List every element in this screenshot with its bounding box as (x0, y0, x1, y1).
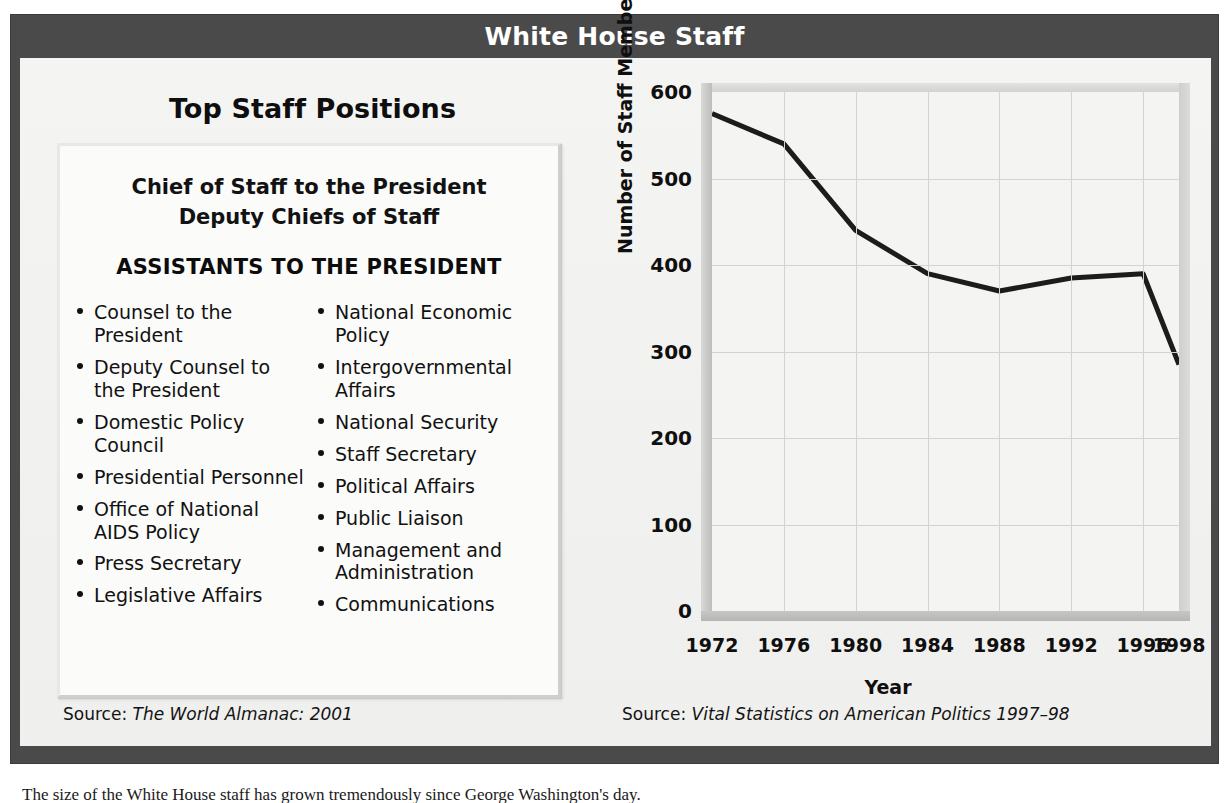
chart-gridline-horizontal (712, 265, 1179, 266)
bullet-icon (77, 418, 83, 424)
chart-gridline-vertical (999, 92, 1000, 611)
position-list-item: Office of National AIDS Policy (74, 498, 307, 544)
chart-gridline-vertical (1143, 92, 1144, 611)
position-list-item: Presidential Personnel (74, 466, 307, 489)
position-list-item: Communications (315, 593, 540, 616)
chart-x-tick-label: 1988 (973, 634, 1026, 656)
position-list-item: Press Secretary (74, 552, 307, 575)
chart-gridline-horizontal (712, 525, 1179, 526)
left-source-label: Source: (63, 704, 133, 724)
position-label: Counsel to the President (94, 301, 232, 346)
bullet-icon (318, 600, 324, 606)
position-label: Domestic Policy Council (94, 411, 244, 456)
position-label: National Security (335, 411, 498, 433)
plot-bevel-right (1179, 83, 1190, 621)
figure-caption: The size of the White House staff has gr… (22, 784, 1207, 803)
positions-list-right: National Economic PolicyIntergovernmenta… (315, 301, 540, 617)
line-chart: Number of Staff Members 0100200300400500… (605, 58, 1211, 746)
plot-bevel-left (701, 83, 712, 621)
chart-gridline-vertical (856, 92, 857, 611)
bullet-icon (318, 418, 324, 424)
position-list-item: Counsel to the President (74, 301, 307, 347)
panel-top-staff-positions: Top Staff Positions Chief of Staff to th… (20, 58, 605, 746)
chart-gridline-vertical (784, 92, 785, 611)
chart-x-tick-label: 1984 (901, 634, 954, 656)
chart-plot-area (712, 92, 1179, 611)
bullet-icon (77, 559, 83, 565)
bullet-icon (77, 505, 83, 511)
card-subheading-assistants: ASSISTANTS TO THE PRESIDENT (60, 255, 558, 279)
chart-x-tick-label: 1998 (1153, 634, 1206, 656)
bullet-icon (318, 450, 324, 456)
left-panel-heading: Top Staff Positions (20, 93, 605, 124)
panel-decline-in-staff: Decline in Staff Number of Staff Members… (605, 58, 1211, 746)
chart-gridline-horizontal (712, 438, 1179, 439)
figure-page: White House Staff Top Staff Positions Ch… (0, 0, 1229, 803)
position-list-item: Staff Secretary (315, 443, 540, 466)
chart-x-tick-label: 1976 (757, 634, 810, 656)
position-label: Public Liaison (335, 507, 464, 529)
position-list-item: Intergovernmental Affairs (315, 356, 540, 402)
left-source-title: The World Almanac: 2001 (133, 704, 353, 724)
position-label: Legislative Affairs (94, 584, 263, 606)
position-list-item: Political Affairs (315, 475, 540, 498)
chart-x-tick-label: 1972 (686, 634, 739, 656)
right-source-title: Vital Statistics on American Politics 19… (692, 704, 1070, 724)
chart-x-tick-label: 1980 (829, 634, 882, 656)
position-label: Political Affairs (335, 475, 475, 497)
position-label: Office of National AIDS Policy (94, 498, 259, 543)
positions-column-left: Counsel to the PresidentDeputy Counsel t… (74, 301, 307, 626)
position-label: Staff Secretary (335, 443, 477, 465)
card-top-lines: Chief of Staff to the President Deputy C… (60, 146, 558, 233)
staff-positions-card: Chief of Staff to the President Deputy C… (57, 143, 561, 698)
bullet-icon (77, 363, 83, 369)
chart-y-tick-label: 200 (650, 426, 692, 450)
chart-gridline-horizontal (712, 179, 1179, 180)
bullet-icon (318, 308, 324, 314)
bullet-icon (318, 546, 324, 552)
bullet-icon (77, 591, 83, 597)
figure-frame: White House Staff Top Staff Positions Ch… (10, 14, 1219, 764)
chart-y-axis-title: Number of Staff Members (614, 0, 636, 254)
position-list-item: Public Liaison (315, 507, 540, 530)
positions-column-right: National Economic PolicyIntergovernmenta… (307, 301, 540, 626)
bullet-icon (318, 482, 324, 488)
bullet-icon (318, 363, 324, 369)
position-list-item: Deputy Counsel to the President (74, 356, 307, 402)
right-source-label: Source: (622, 704, 692, 724)
chart-y-tick-label: 0 (678, 599, 692, 623)
bullet-icon (77, 473, 83, 479)
top-line-deputy-chiefs: Deputy Chiefs of Staff (60, 203, 558, 233)
top-line-chief-of-staff: Chief of Staff to the President (60, 173, 558, 203)
chart-plot-frame: 0100200300400500600197219761980198419881… (701, 83, 1190, 621)
position-list-item: Management and Administration (315, 539, 540, 585)
bullet-icon (318, 514, 324, 520)
figure-body: Top Staff Positions Chief of Staff to th… (20, 58, 1211, 746)
chart-x-axis-title: Year (605, 676, 1171, 698)
chart-gridline-horizontal (712, 352, 1179, 353)
chart-gridline-vertical (928, 92, 929, 611)
positions-list-left: Counsel to the PresidentDeputy Counsel t… (74, 301, 307, 608)
plot-bevel-bottom (701, 611, 1190, 621)
position-label: National Economic Policy (335, 301, 512, 346)
chart-series-polyline (712, 114, 1179, 365)
chart-y-tick-label: 400 (650, 253, 692, 277)
position-list-item: National Economic Policy (315, 301, 540, 347)
right-panel-source: Source: Vital Statistics on American Pol… (622, 704, 1070, 724)
chart-y-tick-label: 300 (650, 340, 692, 364)
position-label: Communications (335, 593, 495, 615)
position-label: Intergovernmental Affairs (335, 356, 512, 401)
position-label: Presidential Personnel (94, 466, 304, 488)
position-label: Management and Administration (335, 539, 502, 584)
chart-x-tick-label: 1992 (1045, 634, 1098, 656)
card-columns: Counsel to the PresidentDeputy Counsel t… (60, 301, 558, 626)
position-label: Deputy Counsel to the President (94, 356, 270, 401)
left-panel-source: Source: The World Almanac: 2001 (63, 704, 353, 724)
chart-y-tick-label: 500 (650, 167, 692, 191)
bullet-icon (77, 308, 83, 314)
chart-y-tick-label: 600 (650, 80, 692, 104)
chart-y-tick-label: 100 (650, 513, 692, 537)
position-list-item: Domestic Policy Council (74, 411, 307, 457)
position-label: Press Secretary (94, 552, 241, 574)
plot-bevel-top (701, 83, 1190, 92)
